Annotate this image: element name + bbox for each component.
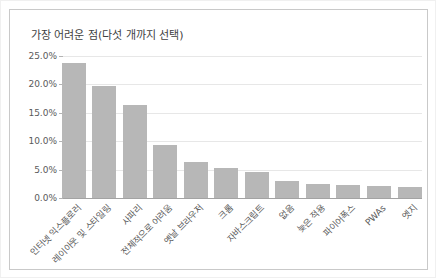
y-axis-tick xyxy=(59,198,63,199)
x-axis-tick-label: 엣지 xyxy=(400,203,418,221)
y-axis-tick xyxy=(59,56,63,57)
y-axis-tick-label: 5.0% xyxy=(10,165,57,175)
y-axis-tick-label: 25.0% xyxy=(10,51,57,61)
x-axis-tick-label: 레이아웃 및 스타일링 xyxy=(51,203,113,265)
bar xyxy=(275,181,299,198)
bar xyxy=(245,172,269,198)
bar xyxy=(398,187,422,198)
y-gridline xyxy=(60,56,422,57)
bar xyxy=(367,186,391,198)
x-axis-tick-label: 없음 xyxy=(278,203,296,221)
y-axis-tick-label: 0.0% xyxy=(10,193,57,203)
bar xyxy=(62,63,86,198)
bar xyxy=(184,162,208,198)
bar xyxy=(153,145,177,198)
chart-screenshot: 가장 어려운 점(다섯 개까지 선택) 25.0%20.0%15.0%10.0%… xyxy=(0,0,436,278)
x-axis-tick-label: 파이어폭스 xyxy=(322,203,357,238)
y-axis-tick-label: 15.0% xyxy=(10,108,57,118)
x-axis-tick-label: 인터넷 익스플로러 xyxy=(28,203,82,257)
chart-panel: 가장 어려운 점(다섯 개까지 선택) 25.0%20.0%15.0%10.0%… xyxy=(9,9,428,270)
plot-area: 25.0%20.0%15.0%10.0%5.0%0.0%인터넷 익스플로러레이아… xyxy=(10,10,429,271)
bar xyxy=(123,105,147,198)
bar xyxy=(336,185,360,198)
bar xyxy=(306,184,330,198)
x-axis-tick-label: PWAs xyxy=(364,203,389,228)
x-axis-tick-label: 사파리 xyxy=(120,203,144,227)
y-axis-tick-label: 20.0% xyxy=(10,79,57,89)
x-axis-tick-label: 크롬 xyxy=(217,203,235,221)
bar xyxy=(214,168,238,198)
y-axis-tick-label: 10.0% xyxy=(10,136,57,146)
bar xyxy=(92,86,116,198)
x-axis-line xyxy=(60,198,422,199)
